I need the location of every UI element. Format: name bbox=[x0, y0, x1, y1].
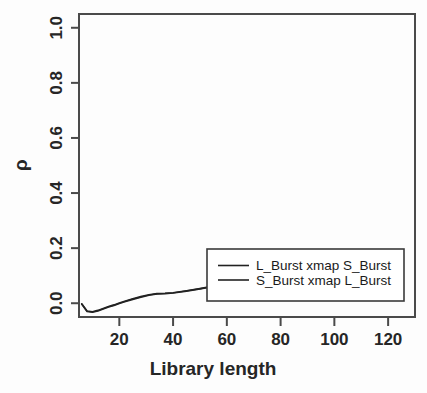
x-tick-label-0: 20 bbox=[110, 330, 129, 349]
y-tick-label-0: 0.0 bbox=[48, 291, 67, 315]
y-axis-ticks bbox=[71, 28, 79, 303]
y-axis-tick-labels: 0.00.20.40.60.81.0 bbox=[48, 16, 67, 315]
y-tick-label-3: 0.6 bbox=[48, 126, 67, 150]
x-tick-label-5: 120 bbox=[374, 330, 402, 349]
x-axis-ticks bbox=[119, 317, 388, 326]
x-tick-label-4: 100 bbox=[320, 330, 348, 349]
chart-figure: 0.00.20.40.60.81.0 20406080100120 L_Burs… bbox=[0, 0, 427, 393]
y-axis-title: ρ bbox=[10, 159, 31, 171]
x-axis-tick-labels: 20406080100120 bbox=[110, 330, 402, 349]
legend-label-2: S_Burst xmap L_Burst bbox=[256, 273, 391, 288]
x-axis-title: Library length bbox=[150, 358, 277, 379]
y-tick-label-2: 0.4 bbox=[48, 181, 67, 205]
legend-label-1: L_Burst xmap S_Burst bbox=[256, 258, 391, 273]
ccm-convergence-plot: 0.00.20.40.60.81.0 20406080100120 L_Burs… bbox=[0, 0, 427, 393]
y-tick-label-1: 0.2 bbox=[48, 236, 67, 260]
x-tick-label-3: 80 bbox=[271, 330, 290, 349]
x-tick-label-1: 40 bbox=[164, 330, 183, 349]
x-tick-label-2: 60 bbox=[217, 330, 236, 349]
y-tick-label-5: 1.0 bbox=[48, 16, 67, 40]
y-tick-label-4: 0.8 bbox=[48, 71, 67, 95]
legend: L_Burst xmap S_Burst S_Burst xmap L_Burs… bbox=[207, 249, 404, 301]
